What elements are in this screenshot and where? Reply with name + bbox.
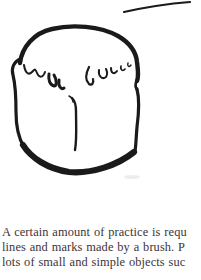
bread-left-edge-stroke: [12, 59, 24, 147]
crust-squiggle: [128, 63, 131, 66]
crust-squiggle: [111, 68, 117, 73]
crease-stem-stroke: [72, 98, 76, 150]
paragraph-line-1: A certain amount of practice is requ: [2, 225, 201, 240]
page-edge-stroke: [124, 2, 190, 12]
crust-squiggle: [121, 66, 125, 70]
paragraph-line-2: lines and marks made by a brush. P: [2, 240, 201, 255]
crust-squiggle: [49, 74, 57, 86]
book-page: A certain amount of practice is requ lin…: [0, 0, 201, 280]
body-paragraph: A certain amount of practice is requ lin…: [2, 225, 201, 270]
bread-right-edge-stroke: [135, 89, 139, 151]
crust-squiggle: [24, 65, 45, 77]
center-crease: [69, 96, 76, 150]
crust-squiggle: [59, 80, 64, 89]
crust-squiggle: [86, 67, 93, 85]
bread-loaf-illustration: [0, 0, 201, 225]
print-smudge: [124, 175, 140, 179]
bread-bottom-stroke: [23, 145, 134, 172]
crust-squiggle-band: [24, 63, 131, 89]
crust-squiggle: [99, 69, 107, 78]
paragraph-line-3: lots of small and simple objects suc: [2, 255, 201, 270]
